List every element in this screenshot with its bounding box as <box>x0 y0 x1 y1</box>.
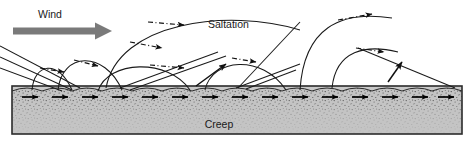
sand-bed <box>12 86 462 134</box>
wind-label: Wind <box>38 8 62 20</box>
sand-stipple-texture <box>12 86 462 134</box>
saltation-label: Saltation <box>208 18 249 30</box>
sand-bed-surface <box>12 86 462 134</box>
creep-label: Creep <box>205 118 234 130</box>
diagram-canvas: Wind Saltation Creep <box>0 0 474 145</box>
wind-arrow-shaft <box>13 28 95 35</box>
aeolian-transport-figure: Wind Saltation Creep <box>0 0 474 145</box>
